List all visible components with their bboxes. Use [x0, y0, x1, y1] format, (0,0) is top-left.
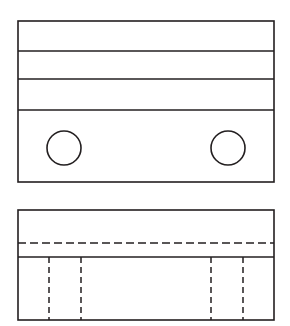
top-view-outline	[18, 21, 274, 182]
top-view	[18, 21, 274, 182]
drawing-sheet	[0, 0, 290, 326]
front-view	[18, 210, 274, 320]
hole-left-circle	[47, 131, 81, 165]
front-view-outline	[18, 210, 274, 320]
hole-right-circle	[211, 131, 245, 165]
engineering-drawing-canvas	[0, 0, 290, 326]
